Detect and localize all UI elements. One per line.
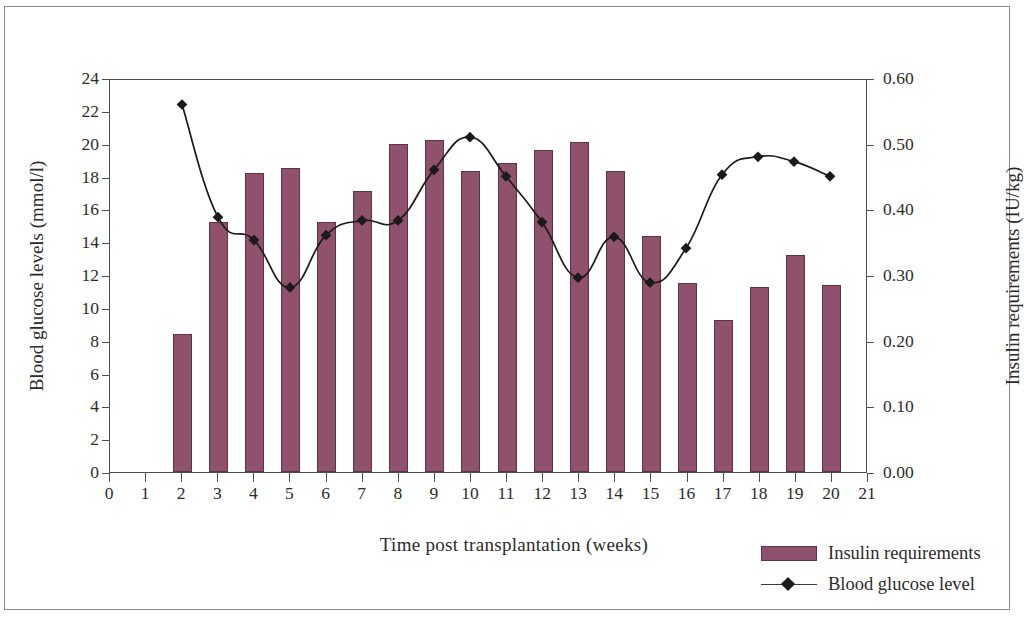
x-tickmark-8 — [398, 473, 399, 482]
y-left-tick-10: 10 — [55, 300, 99, 318]
x-tickmark-18 — [759, 473, 760, 482]
x-tick-10: 10 — [455, 485, 485, 503]
legend-item-insulin-requirements: Insulin requirements — [761, 538, 981, 569]
x-tickmark-14 — [614, 473, 615, 482]
blood-glucose-line-path — [182, 105, 830, 288]
x-tickmark-12 — [542, 473, 543, 482]
y-left-tickmark — [102, 276, 109, 277]
y-left-tickmark — [102, 79, 109, 80]
y-left-tickmark — [102, 145, 109, 146]
x-tick-18: 18 — [744, 485, 774, 503]
x-tickmark-9 — [434, 473, 435, 482]
data-point-week-18 — [753, 151, 764, 162]
x-tickmark-2 — [181, 473, 182, 482]
y-left-tickmark — [102, 375, 109, 376]
x-tick-17: 17 — [708, 485, 738, 503]
y-left-tick-16: 16 — [55, 202, 99, 220]
y-left-tickmark — [102, 210, 109, 211]
y-left-tick-18: 18 — [55, 169, 99, 187]
x-tickmark-5 — [289, 473, 290, 482]
y-right-tickmark — [867, 145, 874, 146]
line-series-blood-glucose-level — [110, 80, 866, 472]
data-point-week-7 — [357, 215, 368, 226]
legend-label-blood-glucose-level: Blood glucose level — [828, 574, 975, 595]
legend-line-diamond-icon — [761, 577, 817, 592]
y-left-tick-22: 22 — [55, 103, 99, 121]
y-right-tick-0.30: 0.30 — [883, 267, 939, 285]
data-point-week-20 — [825, 171, 836, 182]
data-point-week-14 — [609, 231, 620, 242]
y-right-tick-0.00: 0.00 — [883, 464, 939, 482]
y-left-tick-20: 20 — [55, 136, 99, 154]
legend-label-insulin-requirements: Insulin requirements — [828, 543, 981, 564]
y-left-tick-4: 4 — [55, 399, 99, 417]
y-left-tick-2: 2 — [55, 431, 99, 449]
data-point-week-12 — [537, 217, 548, 228]
x-tickmark-6 — [326, 473, 327, 482]
figure-frame: 024681012141618202224 0.000.100.200.300.… — [4, 6, 1010, 610]
x-tick-5: 5 — [274, 485, 304, 503]
x-tick-0: 0 — [94, 485, 124, 503]
x-tickmark-1 — [145, 473, 146, 482]
x-tick-4: 4 — [238, 485, 268, 503]
y-left-tickmark — [102, 440, 109, 441]
y-right-tickmark — [867, 79, 874, 80]
x-tick-1: 1 — [130, 485, 160, 503]
x-tick-7: 7 — [347, 485, 377, 503]
y-left-tick-6: 6 — [55, 366, 99, 384]
y-right-tick-0.60: 0.60 — [883, 70, 939, 88]
chart-legend: Insulin requirements Blood glucose level — [761, 538, 981, 600]
x-tick-12: 12 — [527, 485, 557, 503]
x-tickmark-7 — [362, 473, 363, 482]
y-right-tick-0.50: 0.50 — [883, 136, 939, 154]
y-left-tick-24: 24 — [55, 70, 99, 88]
data-point-week-5 — [285, 282, 296, 293]
x-tickmark-15 — [650, 473, 651, 482]
x-tick-13: 13 — [563, 485, 593, 503]
data-point-week-15 — [645, 277, 656, 288]
y-left-tick-0: 0 — [55, 464, 99, 482]
y-left-tickmark — [102, 407, 109, 408]
y-left-tickmark — [102, 473, 109, 474]
y-right-tickmark — [867, 407, 874, 408]
y-left-tick-12: 12 — [55, 267, 99, 285]
x-tick-6: 6 — [311, 485, 341, 503]
x-tickmark-20 — [831, 473, 832, 482]
data-point-week-13 — [573, 272, 584, 283]
y-right-tickmark — [867, 210, 874, 211]
y-axis-right-title: Insulin requirements (IU/kg) — [1002, 106, 1024, 446]
x-tick-11: 11 — [491, 485, 521, 503]
y-left-tickmark — [102, 178, 109, 179]
data-point-week-3 — [213, 212, 224, 223]
x-tick-16: 16 — [672, 485, 702, 503]
x-tickmark-13 — [578, 473, 579, 482]
y-left-tickmark — [102, 243, 109, 244]
y-right-tickmark — [867, 276, 874, 277]
y-right-tickmark — [867, 473, 874, 474]
data-point-week-16 — [681, 243, 692, 254]
data-point-week-19 — [789, 156, 800, 167]
legend-item-blood-glucose-level: Blood glucose level — [761, 569, 981, 600]
x-tick-3: 3 — [202, 485, 232, 503]
x-tick-15: 15 — [635, 485, 665, 503]
legend-bar-swatch-icon — [761, 546, 817, 561]
x-tickmark-11 — [506, 473, 507, 482]
x-tickmark-0 — [109, 473, 110, 482]
x-tick-8: 8 — [383, 485, 413, 503]
x-tickmark-16 — [687, 473, 688, 482]
y-right-tick-0.20: 0.20 — [883, 333, 939, 351]
y-right-tickmark — [867, 342, 874, 343]
y-right-tick-0.40: 0.40 — [883, 202, 939, 220]
y-left-tickmark — [102, 112, 109, 113]
x-tickmark-10 — [470, 473, 471, 482]
x-tickmark-3 — [217, 473, 218, 482]
y-left-tickmark — [102, 342, 109, 343]
x-tickmark-21 — [867, 473, 868, 482]
x-tickmark-19 — [795, 473, 796, 482]
y-left-tickmark — [102, 309, 109, 310]
data-point-week-2 — [177, 99, 188, 110]
data-point-week-10 — [465, 132, 476, 143]
x-tick-21: 21 — [852, 485, 882, 503]
x-tickmark-4 — [253, 473, 254, 482]
plot-area — [109, 79, 867, 473]
